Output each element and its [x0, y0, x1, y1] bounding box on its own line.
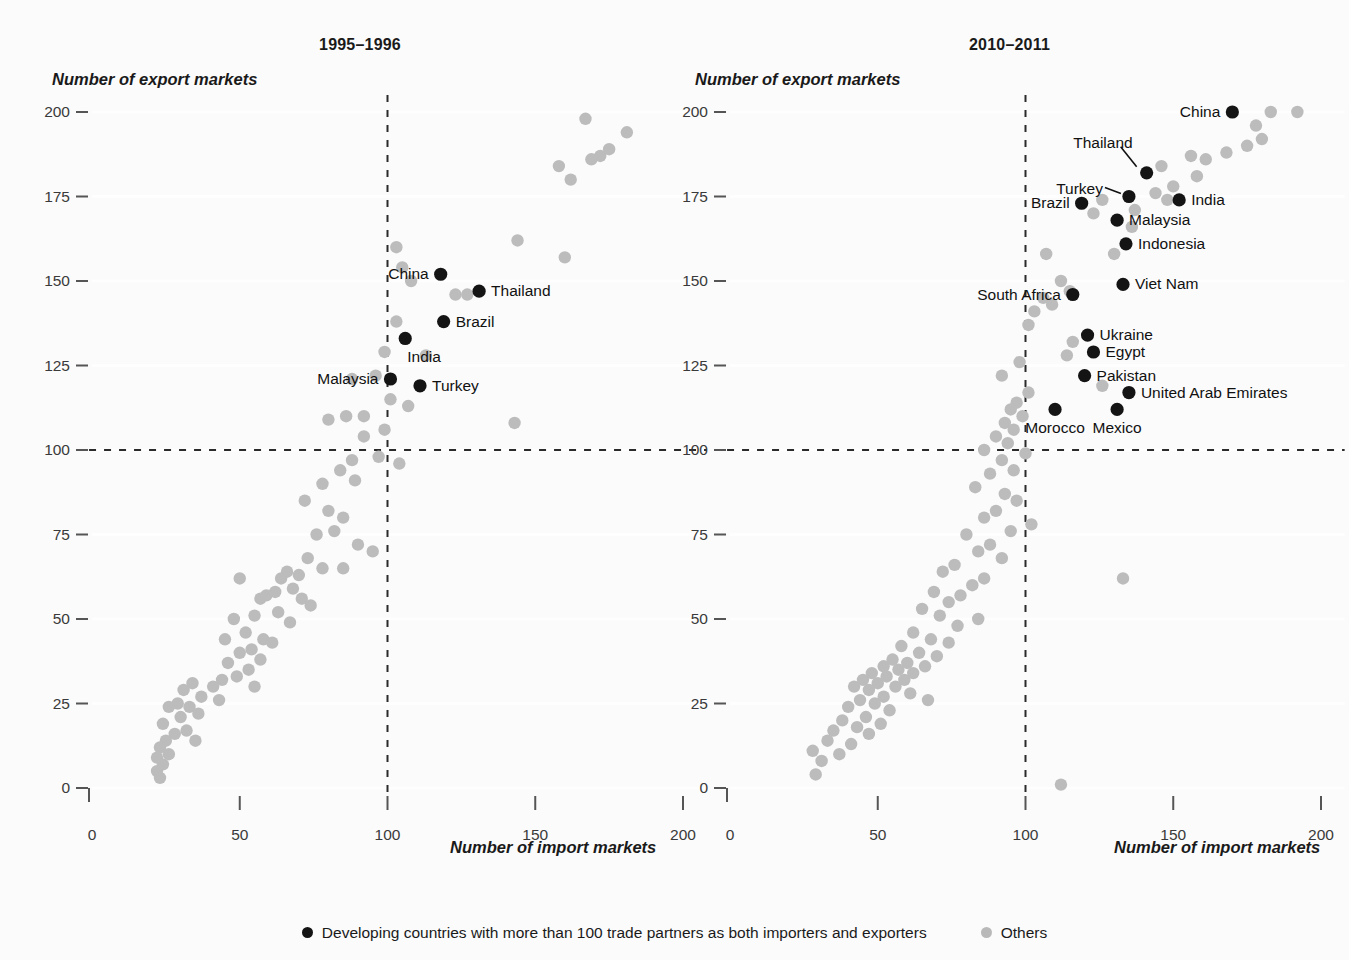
- point-label-brazil: Brazil: [1031, 194, 1070, 212]
- scatter-point-other: [234, 572, 246, 584]
- x-tick-label: 100: [375, 826, 401, 844]
- scatter-point-other: [860, 711, 872, 723]
- scatter-point-other: [284, 616, 296, 628]
- point-label-mexico: Mexico: [1093, 419, 1142, 437]
- y-tick-label: 175: [664, 188, 708, 206]
- y-tick-label: 75: [26, 526, 70, 544]
- scatter-point-other: [809, 768, 821, 780]
- legend-item-developing: Developing countries with more than 100 …: [302, 924, 927, 942]
- scatter-point-other: [807, 745, 819, 757]
- scatter-point-mexico: [1111, 403, 1124, 416]
- y-tick-label: 200: [26, 103, 70, 121]
- scatter-point-brazil: [437, 315, 450, 328]
- scatter-point-other: [254, 653, 266, 665]
- point-label-ukraine: Ukraine: [1100, 326, 1153, 344]
- scatter-point-turkey: [1122, 190, 1135, 203]
- scatter-point-other: [390, 241, 402, 253]
- scatter-point-other: [895, 640, 907, 652]
- scatter-point-other: [854, 694, 866, 706]
- scatter-point-other: [990, 430, 1002, 442]
- scatter-point-other: [863, 728, 875, 740]
- point-label-india: India: [1191, 191, 1225, 209]
- scatter-point-other: [907, 626, 919, 638]
- x-tick-label: 50: [869, 826, 886, 844]
- scatter-point-other: [1161, 194, 1173, 206]
- scatter-point-other: [978, 572, 990, 584]
- scatter-point-turkey: [413, 379, 426, 392]
- scatter-point-india: [399, 332, 412, 345]
- scatter-point-other: [869, 697, 881, 709]
- scatter-point-other: [1200, 153, 1212, 165]
- scatter-point-other: [222, 657, 234, 669]
- point-label-turkey: Turkey: [432, 377, 479, 395]
- scatter-point-other: [621, 126, 633, 138]
- scatter-point-other: [1167, 180, 1179, 192]
- panel-2010-2011: 2010–2011 Number of export markets Numbe…: [670, 0, 1349, 900]
- scatter-point-other: [372, 451, 384, 463]
- scatter-point-other: [384, 393, 396, 405]
- scatter-point-other: [293, 569, 305, 581]
- plot-canvas: [0, 0, 680, 900]
- scatter-point-other: [942, 636, 954, 648]
- scatter-point-other: [966, 579, 978, 591]
- x-tick-label: 200: [1308, 826, 1334, 844]
- scatter-point-thailand: [473, 285, 486, 298]
- scatter-point-other: [508, 417, 520, 429]
- scatter-point-other: [996, 369, 1008, 381]
- point-label-indonesia: Indonesia: [1138, 235, 1205, 253]
- point-label-morocco: Morocco: [1025, 419, 1084, 437]
- scatter-point-other: [1117, 572, 1129, 584]
- scatter-point-other: [913, 647, 925, 659]
- scatter-point-other: [154, 772, 166, 784]
- scatter-point-ukraine: [1081, 328, 1094, 341]
- scatter-point-other: [863, 684, 875, 696]
- scatter-point-other: [310, 528, 322, 540]
- scatter-point-other: [1149, 187, 1161, 199]
- x-tick-label: 0: [88, 826, 97, 844]
- scatter-point-other: [1155, 160, 1167, 172]
- scatter-point-other: [969, 481, 981, 493]
- scatter-point-other: [1108, 248, 1120, 260]
- scatter-point-other: [1019, 447, 1031, 459]
- y-tick-label: 150: [664, 272, 708, 290]
- scatter-point-other: [1007, 424, 1019, 436]
- scatter-point-other: [996, 454, 1008, 466]
- legend-label-others: Others: [1001, 924, 1048, 942]
- point-label-china: China: [1180, 103, 1221, 121]
- scatter-point-other: [851, 721, 863, 733]
- scatter-point-other: [883, 704, 895, 716]
- scatter-point-other: [990, 505, 1002, 517]
- scatter-point-other: [358, 430, 370, 442]
- scatter-point-other: [157, 718, 169, 730]
- point-label-china: China: [388, 265, 429, 283]
- scatter-point-other: [287, 582, 299, 594]
- scatter-point-other: [1025, 518, 1037, 530]
- scatter-point-other: [322, 505, 334, 517]
- scatter-point-other: [1256, 133, 1268, 145]
- scatter-point-other: [352, 538, 364, 550]
- scatter-point-other: [242, 664, 254, 676]
- scatter-point-other: [180, 724, 192, 736]
- scatter-point-other: [245, 643, 257, 655]
- scatter-point-other: [919, 660, 931, 672]
- point-label-viet-nam: Viet Nam: [1135, 275, 1198, 293]
- scatter-point-other: [316, 478, 328, 490]
- scatter-point-other: [996, 552, 1008, 564]
- scatter-point-other: [254, 593, 266, 605]
- scatter-point-other: [1022, 319, 1034, 331]
- scatter-point-other: [231, 670, 243, 682]
- scatter-point-other: [984, 538, 996, 550]
- scatter-point-other: [1265, 106, 1277, 118]
- point-label-brazil: Brazil: [456, 313, 495, 331]
- gray-dot-icon: [981, 927, 992, 938]
- scatter-point-other: [1028, 305, 1040, 317]
- scatter-point-other: [1010, 495, 1022, 507]
- scatter-point-other: [402, 400, 414, 412]
- scatter-point-other: [302, 552, 314, 564]
- y-tick-label: 25: [26, 695, 70, 713]
- point-label-thailand: Thailand: [1073, 134, 1132, 152]
- y-tick-label: 25: [664, 695, 708, 713]
- scatter-point-other: [299, 495, 311, 507]
- scatter-point-other: [579, 113, 591, 125]
- scatter-point-other: [1067, 336, 1079, 348]
